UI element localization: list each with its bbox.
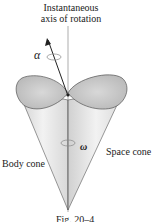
apex-point: [66, 93, 69, 96]
body-cone-label: Body cone: [2, 158, 45, 169]
alpha-label: α: [34, 50, 40, 61]
space-cone-label: Space cone: [106, 146, 151, 157]
axis-label: Instantaneous axis of rotation: [36, 2, 106, 24]
cone-diagram: [0, 0, 156, 222]
axis-label-line1: Instantaneous: [36, 2, 106, 13]
axis-label-line2: axis of rotation: [36, 13, 106, 24]
figure-caption: Fig. 20–4: [56, 214, 94, 222]
omega-label: ω: [80, 141, 87, 152]
